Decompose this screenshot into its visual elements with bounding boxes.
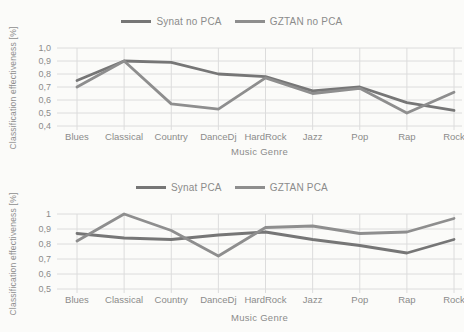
x-category-label: Pop bbox=[351, 294, 368, 305]
x-category-label: Blues bbox=[65, 131, 89, 142]
y-tick-label: 0,4 bbox=[38, 121, 51, 131]
x-category-label: Country bbox=[155, 294, 189, 305]
y-tick-label: 0,9 bbox=[38, 56, 51, 66]
y-tick-label: 0,9 bbox=[38, 224, 51, 234]
scanned-figure-page: Synat no PCA GZTAN no PCA Classification… bbox=[0, 0, 464, 332]
y-tick-label: 0,8 bbox=[38, 69, 51, 79]
x-category-label: Country bbox=[155, 131, 189, 142]
x-category-label: Jazz bbox=[303, 294, 323, 305]
x-category-label: Rock bbox=[443, 294, 464, 305]
y-tick-label: 0,7 bbox=[38, 82, 51, 92]
bottom-chart-pca: Synat PCA GZTAN PCA Classification effec… bbox=[0, 166, 464, 332]
x-category-label: Jazz bbox=[303, 131, 323, 142]
chart-plot-area: 10,90,80,70,60,5BluesClassicalCountryDan… bbox=[0, 166, 464, 332]
x-category-label: Rap bbox=[398, 294, 415, 305]
x-category-label: Rock bbox=[443, 131, 464, 142]
y-tick-label: 0,8 bbox=[38, 239, 51, 249]
x-axis-title: Music Genre bbox=[57, 146, 462, 157]
x-category-label: HardRock bbox=[244, 294, 286, 305]
y-tick-label: 1,0 bbox=[38, 43, 51, 53]
y-tick-label: 0,7 bbox=[38, 254, 51, 264]
x-category-label: Classical bbox=[105, 294, 143, 305]
x-category-label: DanceDj bbox=[200, 294, 236, 305]
x-category-label: HardRock bbox=[244, 131, 286, 142]
y-tick-label: 0,5 bbox=[38, 108, 51, 118]
top-chart-no-pca: Synat no PCA GZTAN no PCA Classification… bbox=[0, 0, 464, 166]
x-category-label: Classical bbox=[105, 131, 143, 142]
x-category-label: DanceDj bbox=[200, 131, 236, 142]
x-category-label: Pop bbox=[351, 131, 368, 142]
y-tick-label: 0,6 bbox=[38, 95, 51, 105]
x-category-label: Rap bbox=[398, 131, 415, 142]
chart-plot-area: 1,00,90,80,70,60,50,4BluesClassicalCount… bbox=[0, 0, 464, 166]
x-category-label: Blues bbox=[65, 294, 89, 305]
x-axis-title: Music Genre bbox=[57, 312, 462, 323]
y-tick-label: 1 bbox=[46, 209, 51, 219]
y-tick-label: 0,6 bbox=[38, 269, 51, 279]
y-tick-label: 0,5 bbox=[38, 284, 51, 294]
